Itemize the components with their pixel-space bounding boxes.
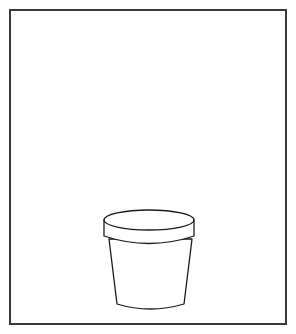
flower-pot-icon bbox=[0, 0, 296, 334]
pot-rim-top bbox=[104, 210, 194, 230]
pot-body bbox=[109, 239, 192, 309]
